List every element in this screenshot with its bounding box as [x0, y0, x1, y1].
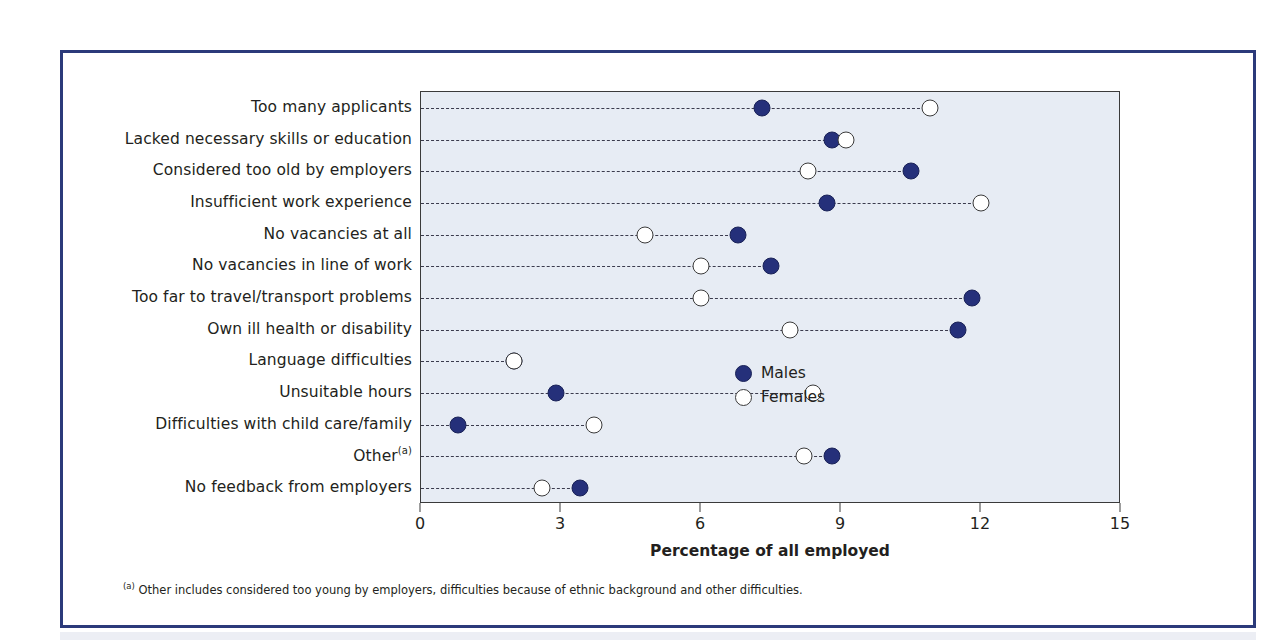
- legend-label-males: Males: [761, 364, 806, 382]
- x-axis: 03691215: [420, 503, 1120, 537]
- data-point-male: [730, 226, 747, 243]
- category-label: Lacked necessary skills or education: [125, 130, 412, 148]
- x-axis-tick: [560, 503, 561, 512]
- footnote-text: Other includes considered too young by e…: [135, 583, 803, 597]
- category-label: Language difficulties: [248, 351, 412, 369]
- x-axis-tick-label: 6: [695, 514, 705, 533]
- data-point-male: [571, 480, 588, 497]
- category-label: Considered too old by employers: [153, 161, 412, 179]
- plot-wrapper: Too many applicantsLacked necessary skil…: [63, 53, 1253, 625]
- male-marker-icon: [735, 365, 752, 382]
- footnote-mark: (a): [123, 581, 135, 591]
- connector-line: [421, 361, 514, 362]
- connector-line: [421, 171, 911, 172]
- data-point-female: [637, 226, 654, 243]
- category-label: Too far to travel/transport problems: [132, 288, 412, 306]
- category-label: Too many applicants: [251, 98, 412, 116]
- data-point-female: [795, 448, 812, 465]
- data-point-male: [903, 163, 920, 180]
- data-point-female: [506, 353, 523, 370]
- category-label: No vacancies in line of work: [192, 256, 412, 274]
- data-point-female: [585, 416, 602, 433]
- x-axis-title: Percentage of all employed: [420, 542, 1120, 560]
- chart-footnote: (a) Other includes considered too young …: [123, 581, 803, 597]
- x-axis-tick: [420, 503, 421, 512]
- connector-line: [421, 235, 738, 236]
- category-label: Other(a): [353, 446, 412, 465]
- connector-line: [421, 140, 846, 141]
- x-axis-tick-label: 12: [970, 514, 990, 533]
- figure-frame: Too many applicantsLacked necessary skil…: [60, 50, 1256, 628]
- category-label: Difficulties with child care/family: [155, 415, 412, 433]
- data-point-female: [921, 99, 938, 116]
- x-axis-tick: [700, 503, 701, 512]
- data-point-female: [781, 321, 798, 338]
- data-point-male: [819, 194, 836, 211]
- data-point-female: [837, 131, 854, 148]
- category-label: No vacancies at all: [264, 225, 412, 243]
- data-point-female: [534, 480, 551, 497]
- category-labels-column: Too many applicantsLacked necessary skil…: [63, 91, 412, 503]
- x-axis-tick: [840, 503, 841, 512]
- x-axis-tick-label: 0: [415, 514, 425, 533]
- data-point-male: [823, 448, 840, 465]
- legend-item-females: Females: [735, 385, 825, 409]
- category-label: Insufficient work experience: [190, 193, 412, 211]
- x-axis-tick-label: 15: [1110, 514, 1130, 533]
- connector-line: [421, 456, 832, 457]
- legend-label-females: Females: [761, 388, 825, 406]
- connector-line: [421, 330, 958, 331]
- category-footnote-mark: (a): [398, 446, 412, 457]
- data-point-female: [693, 258, 710, 275]
- x-axis-tick-label: 9: [835, 514, 845, 533]
- connector-line: [421, 108, 930, 109]
- category-label: Own ill health or disability: [207, 320, 412, 338]
- connector-line: [421, 425, 594, 426]
- page-bottom-strip: [60, 632, 1256, 640]
- data-point-male: [763, 258, 780, 275]
- x-axis-tick: [980, 503, 981, 512]
- connector-line: [421, 266, 771, 267]
- data-point-male: [753, 99, 770, 116]
- x-axis-tick: [1120, 503, 1121, 512]
- x-axis-tick-label: 3: [555, 514, 565, 533]
- category-label: Unsuitable hours: [279, 383, 412, 401]
- data-point-female: [800, 163, 817, 180]
- category-label: No feedback from employers: [185, 478, 412, 496]
- chart-legend: Males Females: [735, 361, 825, 409]
- data-point-male: [949, 321, 966, 338]
- female-marker-icon: [735, 389, 752, 406]
- plot-area: [420, 91, 1120, 503]
- connector-line: [421, 488, 580, 489]
- data-point-male: [450, 416, 467, 433]
- legend-item-males: Males: [735, 361, 825, 385]
- connector-line: [421, 203, 981, 204]
- data-point-female: [973, 194, 990, 211]
- data-point-male: [548, 385, 565, 402]
- data-point-female: [693, 290, 710, 307]
- data-point-male: [963, 290, 980, 307]
